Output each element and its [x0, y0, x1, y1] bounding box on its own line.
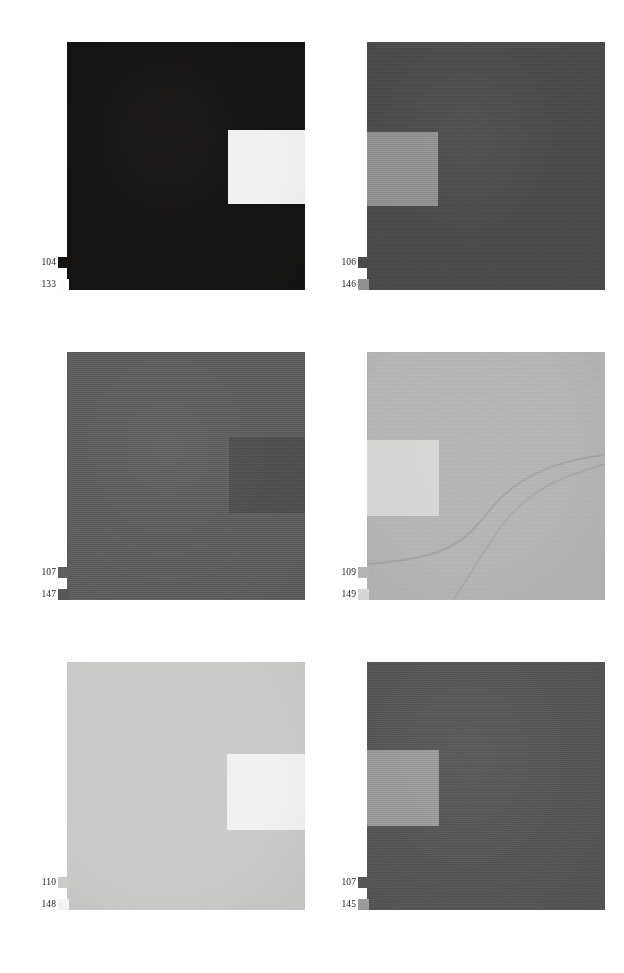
panel-4-label-bottom: 149 [341, 589, 356, 599]
panel-4-patch [367, 440, 439, 516]
panel-5-label-bottom: 148 [41, 899, 56, 909]
panel-2: 106 146 [329, 42, 605, 290]
panel-4-image [367, 352, 605, 600]
panel-6-swatch-bottom [358, 899, 369, 910]
panel-2-image [367, 42, 605, 290]
panel-1-legend-row-bottom: 133 [29, 277, 69, 291]
figure-root: 104 133 106 146 [0, 0, 624, 973]
panel-6-patch [367, 750, 439, 826]
panel-6-legend-row-bottom: 145 [329, 897, 369, 911]
panel-4-legend-row-top: 109 [329, 565, 369, 579]
panel-5-legend-row-bottom: 148 [29, 897, 69, 911]
panel-1-label-bottom: 133 [41, 279, 56, 289]
panel-6-swatch-top [358, 877, 369, 888]
panel-2-label-bottom: 146 [341, 279, 356, 289]
panel-5-label-top: 110 [42, 877, 56, 887]
panel-2-legend-row-top: 106 [329, 255, 369, 269]
panel-1: 104 133 [29, 42, 305, 290]
panel-3-patch [229, 437, 305, 513]
panel-1-label-top: 104 [41, 257, 56, 267]
panel-5-image [67, 662, 305, 910]
panel-3-label-bottom: 147 [41, 589, 56, 599]
panel-4-swatch-bottom [358, 589, 369, 600]
panel-3-swatch-top [58, 567, 69, 578]
panel-2-swatch-top [358, 257, 369, 268]
panel-4-swatch-top [358, 567, 369, 578]
panel-4-label-top: 109 [341, 567, 356, 577]
panel-3-legend-row-bottom: 147 [29, 587, 69, 601]
panel-4-legend-row-bottom: 149 [329, 587, 369, 601]
panel-5-swatch-top [58, 877, 69, 888]
panel-1-legend-row-top: 104 [29, 255, 69, 269]
panel-2-patch [367, 132, 438, 206]
panel-1-patch [228, 130, 305, 204]
panel-2-label-top: 106 [341, 257, 356, 267]
panel-6-image [367, 662, 605, 910]
panel-6-label-bottom: 145 [341, 899, 356, 909]
panel-3-swatch-bottom [58, 589, 69, 600]
panel-2-swatch-bottom [358, 279, 369, 290]
panel-5-patch [227, 754, 305, 830]
panel-1-swatch-top [58, 257, 69, 268]
panel-2-legend-row-bottom: 146 [329, 277, 369, 291]
panel-6: 107 145 [329, 662, 605, 910]
panel-3-image [67, 352, 305, 600]
panel-1-swatch-bottom [58, 279, 69, 290]
panel-5-legend-row-top: 110 [29, 875, 69, 889]
panel-3-legend-row-top: 107 [29, 565, 69, 579]
panel-4: 109 149 [329, 352, 605, 600]
panel-1-image [67, 42, 305, 290]
panel-6-label-top: 107 [341, 877, 356, 887]
panel-3-label-top: 107 [41, 567, 56, 577]
panel-3: 107 147 [29, 352, 305, 600]
panel-6-legend-row-top: 107 [329, 875, 369, 889]
panel-5-swatch-bottom [58, 899, 69, 910]
panel-5: 110 148 [29, 662, 305, 910]
